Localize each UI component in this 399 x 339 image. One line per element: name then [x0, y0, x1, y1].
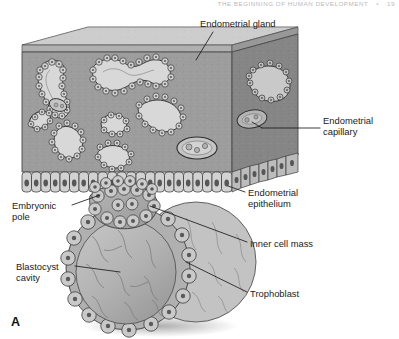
label-inner-cell-mass: Inner cell mass	[250, 238, 313, 249]
anatomical-illustration	[0, 0, 399, 339]
panel-letter: A	[11, 315, 20, 329]
endometrial-capillary	[177, 137, 217, 159]
blastocyst-cavity	[76, 220, 176, 324]
label-embryonic-pole: Embryonic pole	[12, 200, 56, 223]
label-endometrial-capillary: Endometrial capillary	[323, 115, 373, 138]
label-trophoblast: Trophoblast	[250, 288, 299, 299]
figure-page: THE BEGINNING OF HUMAN DEVELOPMENT ▪ 19	[0, 0, 399, 339]
figure-illustration: Endometrial gland Endometrial capillary …	[0, 0, 399, 339]
stroma-side-face	[232, 34, 298, 172]
label-endometrial-gland: Endometrial gland	[200, 18, 276, 29]
label-blastocyst-cavity: Blastocyst cavity	[16, 261, 59, 284]
label-endometrial-epithelium: Endometrial epithelium	[248, 187, 298, 210]
